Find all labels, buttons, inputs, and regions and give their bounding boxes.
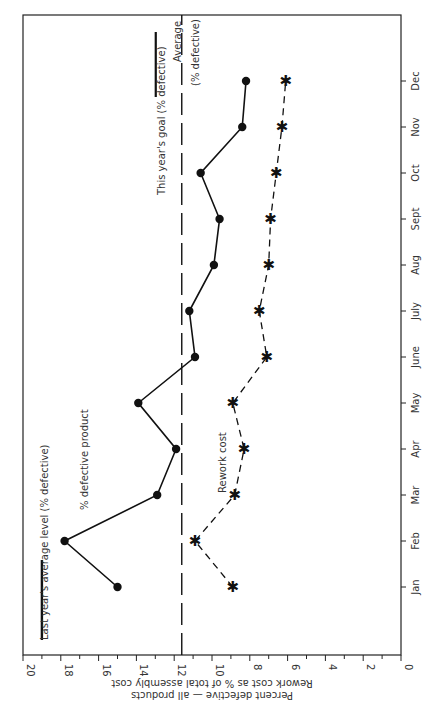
rework-asterisk-point: ✱ — [276, 118, 289, 135]
plot-frame — [23, 15, 401, 655]
average-label-2: (% defective) — [190, 19, 201, 86]
rework-asterisk-point: ✱ — [228, 486, 241, 503]
axis-title-line2: Rework cost as % of total assembly cost — [111, 678, 313, 689]
rework-asterisk-point: ✱ — [261, 348, 274, 365]
rework-asterisk-point: ✱ — [238, 440, 251, 457]
month-label: Apr — [410, 439, 421, 457]
value-tick-label: 12 — [176, 664, 187, 677]
rework-asterisk-point: ✱ — [227, 578, 240, 595]
month-label: Nov — [410, 117, 421, 137]
month-label: July — [410, 302, 421, 321]
defective-point — [238, 123, 246, 131]
month-label: Jan — [410, 579, 421, 595]
rework-asterisk-point: ✱ — [262, 256, 275, 273]
value-tick-label: 2 — [365, 664, 376, 670]
value-tick-label: 14 — [138, 664, 149, 677]
defective-series-label: % defective product — [79, 409, 90, 510]
rework-series-label: Rework cost — [217, 432, 228, 493]
defective-point — [113, 583, 121, 591]
defective-point — [153, 491, 161, 499]
rework-line — [195, 81, 286, 587]
month-label: Dec — [410, 71, 421, 90]
month-label: Oct — [410, 164, 421, 181]
defective-point — [172, 445, 180, 453]
defective-point — [191, 353, 199, 361]
month-label: Sept — [410, 208, 421, 231]
average-label-1: Average — [172, 21, 183, 62]
value-tick-label: 0 — [403, 664, 414, 670]
defective-point — [60, 537, 68, 545]
rework-asterisk-point: ✱ — [253, 302, 266, 319]
value-tick-label: 16 — [101, 664, 112, 677]
defective-point — [210, 261, 218, 269]
defective-point — [215, 215, 223, 223]
month-axis-ticks: JanFebMarAprMayJuneJulyAugSeptOctNovDec — [401, 71, 421, 595]
value-tick-label: 10 — [214, 664, 225, 677]
value-tick-label: 6 — [290, 664, 301, 670]
value-axis-ticks: 02468101214161820 — [23, 655, 414, 677]
value-tick-label: 4 — [327, 664, 338, 670]
defective-point — [185, 307, 193, 315]
rework-asterisk-point: ✱ — [279, 72, 292, 89]
month-label: May — [410, 393, 421, 414]
value-tick-label: 20 — [25, 664, 36, 677]
rework-asterisk-point: ✱ — [264, 210, 277, 227]
last-year-label: Last year's average level (% defective) — [39, 444, 50, 640]
data-series: ✱✱✱✱✱✱✱✱✱✱✱✱ — [60, 72, 292, 595]
rework-asterisk-point: ✱ — [227, 394, 240, 411]
month-label: Mar — [410, 485, 421, 505]
defective-point — [242, 77, 250, 85]
axis-title-line1: Percent defective — all products — [131, 690, 293, 701]
defective-point — [134, 399, 142, 407]
goal-label: This year's goal (% defective) — [156, 46, 167, 196]
value-tick-label: 18 — [63, 664, 74, 677]
month-label: Feb — [410, 532, 421, 550]
month-label: Aug — [410, 255, 421, 275]
month-label: June — [410, 346, 421, 369]
rework-asterisk-point: ✱ — [270, 164, 283, 181]
defective-point — [196, 169, 204, 177]
value-tick-label: 8 — [252, 664, 263, 670]
quality-trend-chart: 02468101214161820 JanFebMarAprMayJuneJul… — [0, 0, 431, 712]
rework-asterisk-point: ✱ — [189, 532, 202, 549]
